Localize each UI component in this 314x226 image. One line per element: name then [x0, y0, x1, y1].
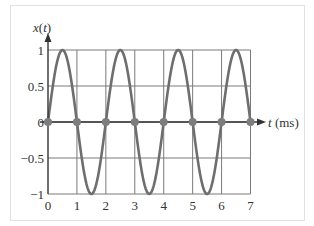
x-axis-arrow-icon: [257, 119, 266, 126]
y-tick-label: 0: [38, 115, 45, 130]
x-tick-label: 7: [247, 198, 254, 213]
y-axis-label: x(t): [32, 20, 51, 35]
x-tick-label: 6: [218, 198, 225, 213]
sample-point: [160, 118, 168, 126]
y-tick-labels: 10.50−0.5−1: [20, 43, 44, 202]
x-axis-label: t (ms): [268, 115, 299, 130]
x-tick-label: 1: [74, 198, 81, 213]
sinusoid-chart: 01234567 10.50−0.5−1 x(t) t (ms): [0, 0, 314, 226]
x-tick-label: 5: [189, 198, 196, 213]
x-tick-label: 3: [132, 198, 139, 213]
sample-point: [218, 118, 226, 126]
y-tick-label: 0.5: [28, 79, 44, 94]
y-tick-label: −0.5: [20, 151, 44, 166]
sample-point: [44, 118, 52, 126]
x-tick-label: 0: [45, 198, 52, 213]
y-tick-label: −1: [30, 187, 44, 202]
x-tick-labels: 01234567: [45, 198, 255, 213]
x-tick-label: 2: [103, 198, 110, 213]
sample-point: [131, 118, 139, 126]
sample-point: [189, 118, 197, 126]
x-tick-label: 4: [160, 198, 167, 213]
sample-point: [73, 118, 81, 126]
sample-point: [247, 118, 255, 126]
sample-point: [102, 118, 110, 126]
y-tick-label: 1: [38, 43, 45, 58]
